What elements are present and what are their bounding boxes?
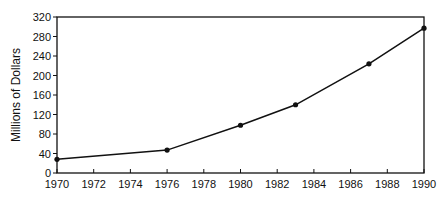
y-tick-label: 80 bbox=[39, 128, 51, 140]
data-point bbox=[238, 123, 243, 128]
x-tick-label: 1978 bbox=[192, 178, 216, 190]
y-axis-ticks: 04080120160200240280320 bbox=[33, 11, 57, 179]
x-tick-label: 1984 bbox=[302, 178, 326, 190]
data-point bbox=[54, 157, 59, 162]
x-axis-ticks: 1970197219741976197819801982198419861988… bbox=[45, 169, 436, 190]
y-tick-label: 280 bbox=[33, 31, 51, 43]
x-tick-label: 1986 bbox=[338, 178, 362, 190]
y-tick-label: 120 bbox=[33, 109, 51, 121]
y-axis-title: Millions of Dollars bbox=[9, 48, 23, 142]
plot-frame bbox=[57, 17, 424, 173]
data-point bbox=[293, 102, 298, 107]
x-tick-label: 1988 bbox=[375, 178, 399, 190]
x-tick-label: 1970 bbox=[45, 178, 69, 190]
data-line bbox=[57, 28, 424, 159]
data-markers bbox=[54, 26, 426, 162]
x-tick-label: 1974 bbox=[118, 178, 142, 190]
y-tick-label: 200 bbox=[33, 70, 51, 82]
data-point bbox=[366, 61, 371, 66]
data-point bbox=[421, 26, 426, 31]
line-chart: Millions of Dollars 04080120160200240280… bbox=[0, 0, 445, 200]
y-tick-label: 160 bbox=[33, 89, 51, 101]
x-tick-label: 1982 bbox=[265, 178, 289, 190]
data-point bbox=[165, 147, 170, 152]
x-tick-label: 1980 bbox=[228, 178, 252, 190]
x-tick-label: 1976 bbox=[155, 178, 179, 190]
y-tick-label: 320 bbox=[33, 11, 51, 23]
x-tick-label: 1972 bbox=[81, 178, 105, 190]
y-tick-label: 40 bbox=[39, 148, 51, 160]
y-tick-label: 240 bbox=[33, 50, 51, 62]
x-tick-label: 1990 bbox=[412, 178, 436, 190]
